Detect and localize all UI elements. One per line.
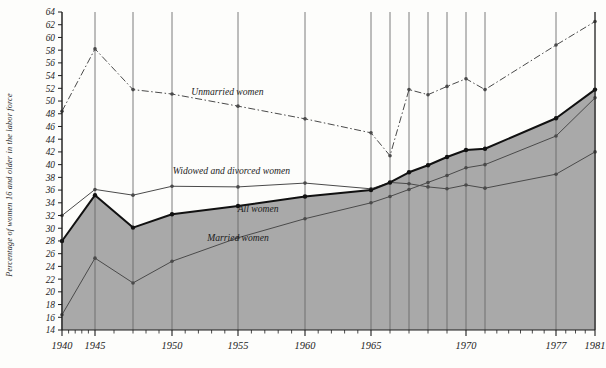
svg-text:48: 48 [46, 109, 56, 119]
svg-text:60: 60 [46, 33, 56, 43]
labor-force-line-chart: 1416182022242628303234363840424446485052… [0, 0, 606, 368]
svg-text:1950: 1950 [162, 340, 184, 351]
svg-text:24: 24 [46, 262, 56, 272]
x-axis-ticks: 194019451950195519601965197019771981 [52, 330, 606, 351]
svg-text:32: 32 [45, 211, 56, 221]
svg-text:42: 42 [46, 147, 56, 157]
svg-text:1945: 1945 [85, 340, 106, 351]
svg-text:36: 36 [45, 185, 56, 195]
svg-text:16: 16 [46, 313, 56, 323]
svg-text:Unmarried women: Unmarried women [191, 86, 263, 97]
y-axis-ticks: 1416182022242628303234363840424446485052… [45, 7, 62, 335]
svg-text:1970: 1970 [456, 340, 478, 351]
svg-text:1955: 1955 [228, 340, 249, 351]
svg-text:26: 26 [46, 249, 56, 259]
svg-text:28: 28 [46, 236, 56, 246]
svg-text:46: 46 [46, 122, 56, 132]
svg-text:62: 62 [46, 20, 56, 30]
svg-text:56: 56 [46, 58, 56, 68]
svg-text:Percentage of women 16 and old: Percentage of women 16 and older in the … [5, 93, 14, 278]
svg-text:30: 30 [45, 224, 56, 234]
svg-text:1940: 1940 [52, 340, 74, 351]
svg-text:1981: 1981 [585, 340, 606, 351]
svg-text:38: 38 [45, 173, 56, 183]
svg-text:1965: 1965 [361, 340, 382, 351]
svg-text:58: 58 [46, 46, 56, 56]
svg-text:20: 20 [46, 287, 56, 297]
svg-text:1960: 1960 [295, 340, 317, 351]
svg-text:40: 40 [46, 160, 56, 170]
chart-figure: 1416182022242628303234363840424446485052… [0, 0, 606, 368]
svg-text:1977: 1977 [546, 340, 568, 351]
svg-text:54: 54 [46, 71, 56, 81]
svg-text:64: 64 [46, 7, 56, 17]
svg-text:52: 52 [46, 84, 56, 94]
svg-text:Widowed and divorced women: Widowed and divorced women [173, 165, 290, 176]
svg-text:44: 44 [46, 135, 56, 145]
y-axis-title: Percentage of women 16 and older in the … [5, 93, 14, 278]
svg-text:18: 18 [46, 300, 56, 310]
svg-text:22: 22 [46, 275, 56, 285]
svg-text:All women: All women [237, 203, 279, 214]
svg-text:14: 14 [46, 325, 56, 335]
svg-text:34: 34 [45, 198, 56, 208]
svg-text:Married women: Married women [206, 232, 269, 243]
svg-text:50: 50 [46, 96, 56, 106]
